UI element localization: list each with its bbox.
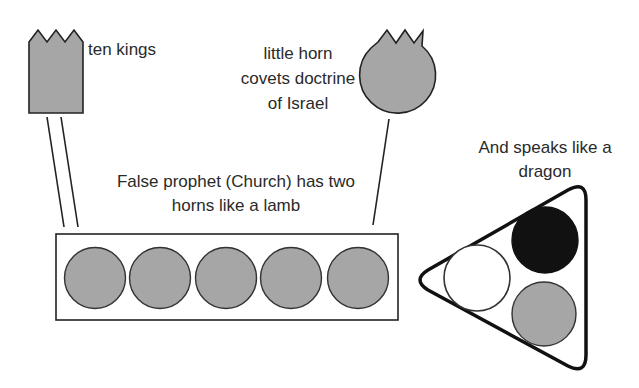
little-horn-label-line-2: covets doctrine	[238, 66, 358, 91]
dragon-circle-gray	[512, 282, 576, 346]
false-prophet-label: False prophet (Church) has two horns lik…	[86, 170, 386, 218]
dragon-label-line-1: And speaks like a	[455, 136, 635, 160]
little-horn-label-line-3: of Israel	[238, 91, 358, 116]
box-circle-3	[196, 248, 257, 309]
little-horn-label-line-1: little horn	[238, 41, 358, 66]
connector-line-left-1	[47, 117, 64, 227]
dragon-label: And speaks like a dragon	[455, 136, 635, 184]
little-horn-label: little horn covets doctrine of Israel	[238, 41, 358, 116]
dragon-circle-black	[512, 207, 578, 273]
ten-kings-label: ten kings	[88, 38, 156, 62]
false-prophet-label-line-2: horns like a lamb	[86, 194, 386, 218]
ten-kings-crown-shape	[29, 30, 83, 113]
box-circle-1	[65, 248, 126, 309]
dragon-circle-white	[444, 245, 510, 311]
box-circle-2	[130, 248, 191, 309]
little-horn-shape	[360, 30, 436, 113]
box-circle-5	[328, 248, 389, 309]
dragon-label-line-2: dragon	[455, 160, 635, 184]
false-prophet-label-line-1: False prophet (Church) has two	[86, 170, 386, 194]
connector-line-left-2	[61, 117, 78, 227]
box-circle-4	[261, 248, 322, 309]
